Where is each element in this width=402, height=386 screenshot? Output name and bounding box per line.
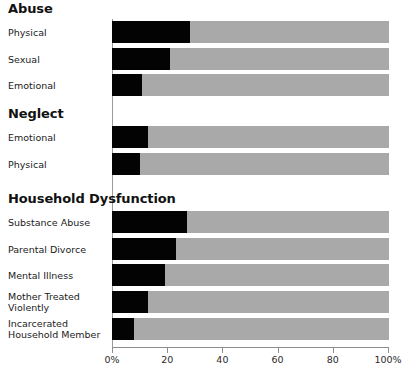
bar-label: Emotional	[8, 80, 108, 91]
bar-fill	[112, 291, 148, 313]
bar-fill	[112, 74, 142, 96]
x-axis-line	[112, 347, 388, 348]
x-axis-tick-label: 40	[216, 354, 228, 365]
x-axis-tick	[388, 347, 389, 353]
bar-track	[112, 126, 389, 148]
group-heading-abuse: Abuse	[8, 1, 53, 16]
bar-label: Mental Illness	[8, 270, 108, 281]
bar-label: Physical	[8, 159, 108, 170]
bar-label: Emotional	[8, 132, 108, 143]
x-axis-tick	[278, 347, 279, 353]
group-heading-neglect: Neglect	[8, 106, 64, 121]
bar-fill	[112, 211, 187, 233]
bar-label: Substance Abuse	[8, 217, 108, 228]
bar-row-incarcerated-household-member: Incarcerated Household Member	[0, 318, 401, 340]
bar-label: Physical	[8, 27, 108, 38]
bar-track	[112, 74, 389, 96]
bar-fill	[112, 318, 134, 340]
bar-row-abuse-sexual: Sexual	[0, 48, 401, 70]
x-axis-tick	[222, 347, 223, 353]
x-axis-tick-label: 100%	[374, 354, 401, 365]
group-heading-household-dysfunction: Household Dysfunction	[8, 191, 176, 206]
bar-label: Incarcerated Household Member	[8, 318, 108, 340]
x-axis-tick-label: 80	[327, 354, 339, 365]
bar-track	[112, 211, 389, 233]
bar-track	[112, 153, 389, 175]
x-axis-tick-label: 60	[272, 354, 284, 365]
bar-track	[112, 264, 389, 286]
bar-fill	[112, 126, 148, 148]
bar-track	[112, 238, 389, 260]
x-axis-tick-label: 20	[161, 354, 173, 365]
bar-fill	[112, 264, 165, 286]
bar-row-parental-divorce: Parental Divorce	[0, 238, 401, 260]
x-axis-tick	[333, 347, 334, 353]
bar-row-neglect-physical: Physical	[0, 153, 401, 175]
x-axis-tick-label: 0%	[104, 354, 119, 365]
bar-row-substance-abuse: Substance Abuse	[0, 211, 401, 233]
bar-track	[112, 21, 389, 43]
bar-label: Parental Divorce	[8, 244, 108, 255]
bar-row-abuse-physical: Physical	[0, 21, 401, 43]
bar-track	[112, 291, 389, 313]
bar-row-mother-treated-violently: Mother Treated Violently	[0, 291, 401, 313]
bar-fill	[112, 153, 140, 175]
bar-fill	[112, 48, 170, 70]
bar-track	[112, 48, 389, 70]
x-axis-tick	[112, 347, 113, 353]
bar-row-mental-illness: Mental Illness	[0, 264, 401, 286]
bar-label: Mother Treated Violently	[8, 291, 108, 313]
bar-row-neglect-emotional: Emotional	[0, 126, 401, 148]
x-axis-tick	[167, 347, 168, 353]
bar-row-abuse-emotional: Emotional	[0, 74, 401, 96]
bar-fill	[112, 238, 176, 260]
bar-track	[112, 318, 389, 340]
bar-label: Sexual	[8, 54, 108, 65]
bar-fill	[112, 21, 190, 43]
